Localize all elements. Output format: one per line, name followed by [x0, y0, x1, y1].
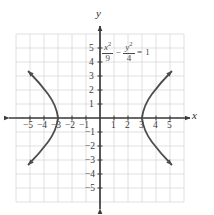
xtick-label-2: 2	[125, 121, 130, 131]
ytick-label-5: 5	[89, 44, 94, 54]
xtick-label-neg3: −3	[51, 121, 61, 131]
exponent-2-right: 2	[129, 40, 132, 47]
plot-canvas	[0, 0, 214, 215]
numerator-y-squared: y2	[123, 41, 134, 52]
hyperbola-graph-figure: x y −5 −4 −3 −2 −1 1 2 3 4 5 5 4 3 2 1 −…	[0, 0, 214, 215]
hyperbola-equation-annotation: x2 9 − y2 4 = 1	[101, 41, 150, 63]
fraction-y-squared-over-4: y2 4	[123, 41, 134, 63]
xtick-label-neg2: −2	[65, 121, 75, 131]
ytick-label-neg5: −5	[85, 184, 95, 194]
ytick-label-neg2: −2	[85, 142, 95, 152]
numerator-x-squared: x2	[102, 41, 113, 52]
ytick-label-neg4: −4	[85, 170, 95, 180]
x-axis-label: x	[192, 110, 197, 121]
ytick-label-2: 2	[89, 86, 94, 96]
coordinate-axes	[9, 26, 190, 209]
xtick-label-3: 3	[139, 121, 144, 131]
ytick-label-1: 1	[89, 100, 94, 110]
denominator-9: 9	[103, 54, 112, 63]
minus-operator: −	[116, 48, 121, 57]
right-branch-upper	[142, 72, 172, 119]
xtick-label-neg4: −4	[37, 121, 47, 131]
ytick-label-4: 4	[89, 58, 94, 68]
denominator-4: 4	[125, 54, 134, 63]
equals-sign: =	[137, 48, 142, 57]
exponent-2-left: 2	[108, 40, 111, 47]
right-hand-side-1: 1	[145, 48, 150, 57]
xtick-label-neg5: −5	[23, 121, 33, 131]
left-branch-upper	[29, 72, 59, 119]
ytick-label-neg1: −1	[85, 128, 95, 138]
xtick-label-5: 5	[167, 121, 172, 131]
ytick-label-neg3: −3	[85, 156, 95, 166]
y-axis-label: y	[96, 8, 101, 19]
xtick-label-4: 4	[153, 121, 158, 131]
ytick-label-3: 3	[89, 72, 94, 82]
fraction-x-squared-over-9: x2 9	[102, 41, 113, 63]
xtick-label-1: 1	[111, 121, 116, 131]
